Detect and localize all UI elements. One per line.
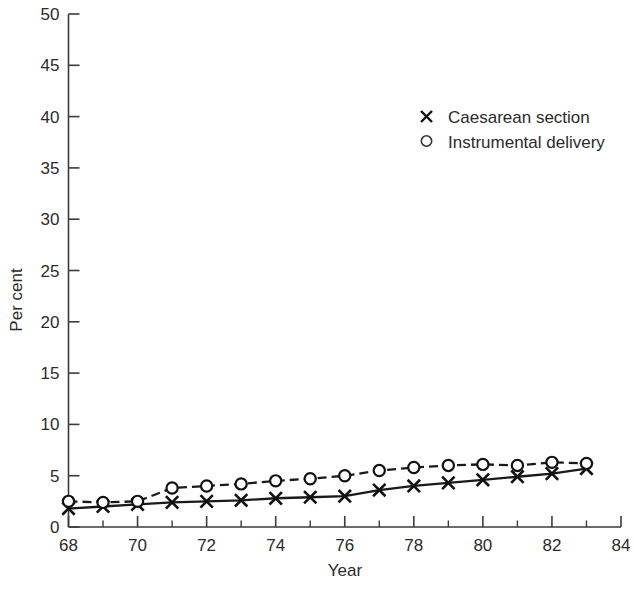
legend: Caesarean section Instrumental delivery <box>421 108 605 152</box>
x-tick-label: 68 <box>59 536 78 555</box>
y-axis-ticks <box>69 14 80 527</box>
y-tick-label: 40 <box>41 108 60 127</box>
chart-container: 05101520253035404550 687072747678808284 … <box>0 0 634 604</box>
y-tick-label: 15 <box>41 364 60 383</box>
x-axis-title: Year <box>328 561 363 580</box>
x-tick-label: 72 <box>197 536 216 555</box>
data-point-circle <box>512 460 523 471</box>
x-tick-label: 74 <box>266 536 285 555</box>
data-point-circle <box>305 473 316 484</box>
data-point-circle <box>166 482 177 493</box>
data-point-circle <box>132 496 143 507</box>
series-line <box>69 469 587 509</box>
cross-icon <box>421 111 432 122</box>
circle-icon <box>421 136 431 146</box>
y-tick-label: 45 <box>41 56 60 75</box>
x-axis-tick-labels: 687072747678808284 <box>59 536 630 555</box>
data-point-circle <box>374 465 385 476</box>
data-point-circle <box>443 460 454 471</box>
legend-item-instrumental-delivery: Instrumental delivery <box>421 133 605 152</box>
x-tick-label: 80 <box>473 536 492 555</box>
y-tick-label: 5 <box>50 467 59 486</box>
x-tick-label: 70 <box>128 536 147 555</box>
data-point-circle <box>477 459 488 470</box>
data-point-circle <box>201 480 212 491</box>
data-point-circle <box>339 470 350 481</box>
x-tick-label: 84 <box>612 536 631 555</box>
x-tick-label: 76 <box>335 536 354 555</box>
y-tick-label: 50 <box>41 5 60 24</box>
data-point-circle <box>236 478 247 489</box>
data-series-layer <box>62 457 592 515</box>
y-tick-label: 0 <box>50 518 59 537</box>
data-point-circle <box>581 458 592 469</box>
x-axis-ticks <box>69 516 622 527</box>
x-tick-label: 82 <box>542 536 561 555</box>
y-tick-label: 10 <box>41 415 60 434</box>
data-point-circle <box>97 497 108 508</box>
data-point-circle <box>546 457 557 468</box>
y-axis-tick-labels: 05101520253035404550 <box>41 5 60 537</box>
y-tick-label: 20 <box>41 313 60 332</box>
y-tick-label: 30 <box>41 210 60 229</box>
y-tick-label: 25 <box>41 262 60 281</box>
data-point-circle <box>270 475 281 486</box>
data-point-circle <box>63 496 74 507</box>
legend-item-caesarean-section: Caesarean section <box>421 108 590 127</box>
x-tick-label: 78 <box>404 536 423 555</box>
data-point-circle <box>408 462 419 473</box>
legend-label-caesarean-section: Caesarean section <box>448 108 590 127</box>
y-axis-title: Per cent <box>7 268 26 332</box>
y-tick-label: 35 <box>41 159 60 178</box>
legend-label-instrumental-delivery: Instrumental delivery <box>448 133 605 152</box>
line-chart: 05101520253035404550 687072747678808284 … <box>0 0 634 604</box>
plot-axes <box>69 14 622 527</box>
